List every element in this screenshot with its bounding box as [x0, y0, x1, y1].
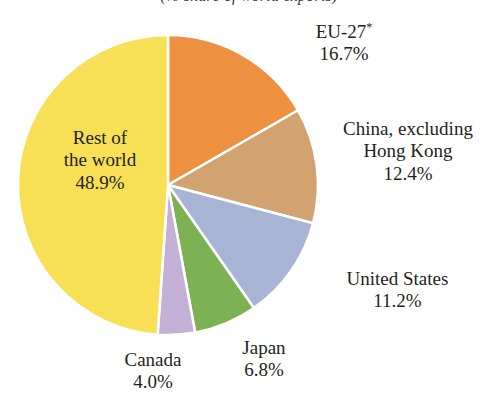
slice-label-eu-27: EU-27* 16.7% — [279, 21, 409, 66]
slice-value-canada: 4.0% — [97, 371, 209, 393]
slice-name-rest-line2: the world — [30, 149, 170, 171]
slice-label-japan: Japan 6.8% — [218, 337, 310, 382]
slice-value-eu-27: 16.7% — [279, 43, 409, 65]
slice-value-japan: 6.8% — [218, 359, 310, 381]
footnote-marker-asterisk: * — [366, 20, 372, 34]
slice-value-china: 12.4% — [318, 163, 498, 185]
slice-value-rest: 48.9% — [30, 172, 170, 194]
slice-name-eu-27: EU-27* — [279, 21, 409, 43]
slice-name-china-line2: Hong Kong — [318, 140, 498, 162]
slice-label-canada: Canada 4.0% — [97, 349, 209, 394]
pie-chart-figure: (% share of world exports) Rest of the w… — [0, 0, 498, 407]
slice-name-canada: Canada — [97, 349, 209, 371]
slice-name-rest-line1: Rest of — [30, 127, 170, 149]
slice-name-eu-27-text: EU-27 — [316, 21, 367, 42]
slice-name-china-line1: China, excluding — [318, 118, 498, 140]
slice-label-rest-of-the-world: Rest of the world 48.9% — [30, 127, 170, 194]
slice-label-united-states: United States 11.2% — [310, 268, 485, 313]
slice-label-china: China, excluding Hong Kong 12.4% — [318, 118, 498, 185]
slice-value-united-states: 11.2% — [310, 290, 485, 312]
slice-name-united-states: United States — [310, 268, 485, 290]
slice-name-japan: Japan — [218, 337, 310, 359]
